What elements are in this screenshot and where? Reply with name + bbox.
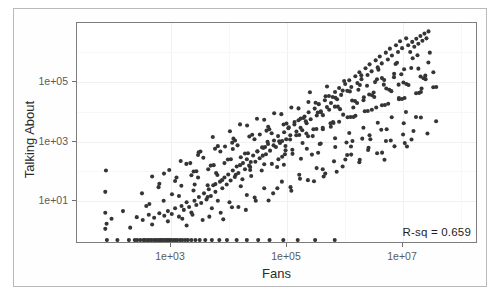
y-axis-label: Talking About (22, 80, 37, 200)
scatter-plot-figure: R-sq = 0.659 1e+031e+051e+07 1e+011e+031… (0, 0, 496, 296)
data-points-layer (77, 23, 476, 242)
x-tick-mark (402, 243, 403, 247)
x-tick-label: 1e+07 (387, 250, 417, 262)
y-tick-mark (72, 81, 76, 82)
x-tick-label: 1e+05 (271, 250, 301, 262)
screenshot-root: R-sq = 0.659 1e+031e+051e+07 1e+011e+031… (0, 0, 496, 296)
x-axis-label: Fans (76, 266, 477, 281)
plot-panel: R-sq = 0.659 (76, 22, 477, 243)
y-tick-mark (72, 200, 76, 201)
x-tick-label: 1e+03 (155, 250, 185, 262)
x-tick-mark (170, 243, 171, 247)
y-tick-mark (72, 141, 76, 142)
x-tick-mark (286, 243, 287, 247)
r-squared-annotation: R-sq = 0.659 (402, 226, 471, 238)
